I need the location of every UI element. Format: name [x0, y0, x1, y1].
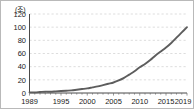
x-axis-tick-labels: 1989199520002005201020152019(년)	[21, 96, 194, 106]
data-series-line	[30, 27, 188, 92]
x-tick-label-2005: 2005	[105, 97, 122, 106]
x-tick-label-2000: 2000	[79, 97, 96, 106]
line-chart-figure: (조) 020406080100120 19891995200020052010…	[0, 0, 194, 109]
y-tick-label-80: 80	[18, 36, 26, 45]
y-tick-label-120: 120	[13, 10, 26, 19]
x-tick-label-2015: 2015	[158, 97, 175, 106]
y-axis-tick-labels: 020406080100120	[13, 10, 26, 98]
x-tick-label-1995: 1995	[53, 97, 70, 106]
x-tick-label-1989: 1989	[21, 97, 38, 106]
x-tick-label-2019: 2019	[175, 97, 192, 106]
y-tick-label-60: 60	[18, 49, 26, 58]
x-tick-label-2010: 2010	[131, 97, 148, 106]
gridlines-group	[30, 14, 188, 80]
chart-canvas: (조) 020406080100120 19891995200020052010…	[1, 1, 194, 109]
y-tick-label-100: 100	[13, 23, 26, 32]
y-tick-label-20: 20	[18, 76, 26, 85]
y-tick-label-40: 40	[18, 62, 26, 71]
